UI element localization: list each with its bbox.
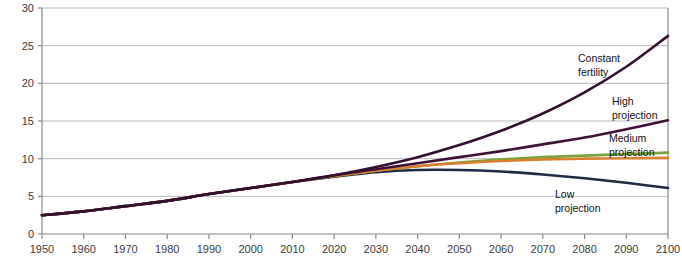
x-tick-label-2080: 2080 (572, 243, 596, 255)
annotation-high-projection: High projection (612, 95, 658, 121)
y-tick-label-20: 20 (22, 77, 34, 89)
x-tick-label-2020: 2020 (322, 243, 346, 255)
gridlines (42, 8, 668, 196)
y-tick-label-15: 15 (22, 115, 34, 127)
annotation-low-projection-line2: projection (555, 202, 601, 214)
annotation-medium-projection: Medium projection (609, 132, 655, 158)
y-axis-ticks: 051015202530 (22, 2, 42, 240)
annotation-constant-fertility-line2: fertility (578, 66, 609, 78)
annotation-low-projection-line1: Low (555, 188, 575, 200)
x-tick-label-2050: 2050 (447, 243, 471, 255)
annotation-low-projection: Low projection (555, 188, 601, 214)
x-tick-label-1990: 1990 (197, 243, 221, 255)
population-projection-chart: 051015202530 195019601970198019902000201… (0, 0, 682, 264)
x-tick-label-2000: 2000 (238, 243, 262, 255)
x-tick-label-2010: 2010 (280, 243, 304, 255)
x-tick-label-1980: 1980 (155, 243, 179, 255)
y-tick-label-10: 10 (22, 153, 34, 165)
x-tick-label-1960: 1960 (71, 243, 95, 255)
x-axis-ticks: 1950196019701980199020002010202020302040… (30, 234, 680, 255)
y-tick-label-5: 5 (28, 190, 34, 202)
y-tick-label-30: 30 (22, 2, 34, 14)
annotation-high-projection-line2: projection (612, 109, 658, 121)
y-tick-label-25: 25 (22, 40, 34, 52)
x-tick-label-2060: 2060 (489, 243, 513, 255)
x-tick-label-2090: 2090 (614, 243, 638, 255)
annotation-high-projection-line1: High (612, 95, 634, 107)
x-tick-label-1950: 1950 (30, 243, 54, 255)
annotation-medium-projection-line1: Medium (609, 132, 647, 144)
chart-canvas: 051015202530 195019601970198019902000201… (0, 0, 682, 264)
x-tick-label-2070: 2070 (531, 243, 555, 255)
x-tick-label-2030: 2030 (364, 243, 388, 255)
annotation-medium-projection-line2: projection (609, 146, 655, 158)
annotation-constant-fertility-line1: Constant (578, 52, 620, 64)
y-tick-label-0: 0 (28, 228, 34, 240)
x-tick-label-2100: 2100 (656, 243, 680, 255)
x-tick-label-1970: 1970 (113, 243, 137, 255)
x-tick-label-2040: 2040 (405, 243, 429, 255)
series-line-high-projection (42, 120, 668, 215)
